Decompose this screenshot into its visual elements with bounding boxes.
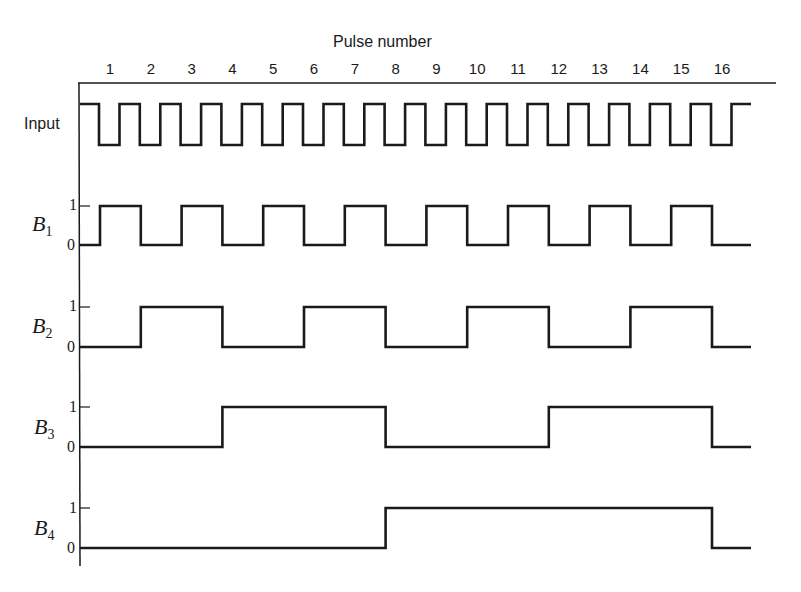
timing-diagram <box>0 0 801 592</box>
